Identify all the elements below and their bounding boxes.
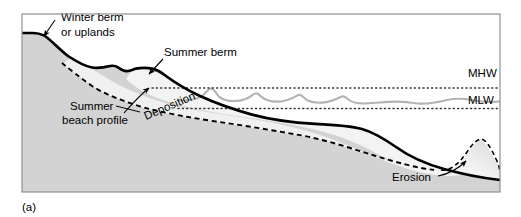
erosion-label: Erosion [392, 171, 431, 183]
mhw-label: MHW [468, 67, 497, 79]
figure-beach-profile: Winter berm or uplands Summer berm Summe… [0, 0, 521, 217]
winter-berm-label-line1: Winter berm [61, 11, 124, 23]
summer-beach-profile-label-line2: beach profile [62, 114, 128, 126]
mlw-label: MLW [468, 94, 494, 106]
beach-profile-svg: Winter berm or uplands Summer berm Summe… [0, 0, 521, 217]
summer-berm-label: Summer berm [164, 46, 237, 58]
summer-beach-profile-label-line1: Summer [70, 100, 114, 112]
panel-letter-label: (a) [22, 201, 36, 213]
winter-berm-label-line2: or uplands [61, 26, 115, 38]
